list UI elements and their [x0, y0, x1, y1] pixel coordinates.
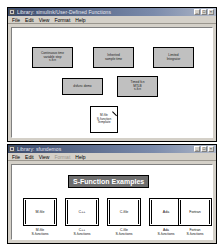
menu-file[interactable]: File — [10, 154, 23, 160]
menu-format[interactable]: Format — [52, 17, 73, 23]
block-label: Inherited sample time — [105, 54, 122, 61]
menu-format: Format — [52, 154, 73, 160]
block-label: Continuous time variable step s-fcn — [41, 52, 64, 63]
block-label: dsfunc demo — [73, 85, 91, 89]
bottom-window-titlebar[interactable]: Library: sfundemos _ □ × — [8, 145, 216, 153]
library-user-defined-functions-window[interactable]: Library: simulink/User-Defined Functions… — [7, 7, 217, 142]
example-block-caption: C++ S-functions — [65, 228, 99, 236]
example-block-caption: C-file S-functions — [107, 228, 141, 236]
block-continuous-time-variable-step-sfcn[interactable]: Continuous time variable step s-fcn — [32, 47, 73, 68]
menu-edit[interactable]: Edit — [23, 17, 37, 23]
minimize-icon: _ — [195, 10, 199, 14]
example-block-face[interactable]: Fortran — [178, 198, 212, 226]
example-block-mfile-sfunctions[interactable]: M-file M-file S-functions — [23, 198, 57, 236]
maximize-icon: □ — [202, 147, 206, 151]
bottom-window-menubar[interactable]: File Edit View Format Help — [8, 153, 216, 161]
library-sfundemos-window[interactable]: Library: sfundemos _ □ × File Edit View … — [7, 144, 217, 244]
example-block-face[interactable]: M-file — [23, 198, 57, 226]
block-label: Timed fcn MTLB s-fcn — [131, 81, 145, 92]
minimize-button[interactable]: _ — [194, 9, 200, 15]
maximize-button[interactable]: □ — [201, 9, 207, 15]
maximize-icon: □ — [202, 10, 206, 14]
example-block-cpp-sfunctions[interactable]: C++ C++ S-functions — [65, 198, 99, 236]
block-timed-fcn-mtlb-sfcn[interactable]: Timed fcn MTLB s-fcn — [117, 76, 158, 97]
close-icon: × — [209, 147, 213, 151]
maximize-button[interactable]: □ — [201, 146, 207, 152]
example-block-face[interactable]: C++ — [65, 198, 99, 226]
block-label: Limited Integrator — [167, 54, 181, 61]
block-limited-integrator[interactable]: Limited Integrator — [153, 47, 194, 68]
block-label: M-file S-function Template — [97, 114, 111, 125]
example-block-face-label: M-file — [36, 210, 45, 214]
menu-file[interactable]: File — [10, 17, 23, 23]
block-dsfunc-demo[interactable]: dsfunc demo — [62, 78, 103, 95]
top-window-menubar[interactable]: File Edit View Format Help — [8, 16, 216, 24]
menu-edit[interactable]: Edit — [23, 154, 37, 160]
close-button[interactable]: × — [208, 9, 214, 15]
minimize-icon: _ — [195, 147, 199, 151]
example-block-face-label: C-file — [120, 210, 128, 214]
top-window-titlebar[interactable]: Library: simulink/User-Defined Functions… — [8, 8, 216, 16]
close-button[interactable]: × — [208, 146, 214, 152]
example-block-face-label: Ada — [163, 210, 169, 214]
top-window-title: Library: simulink/User-Defined Functions — [17, 9, 194, 15]
close-icon: × — [209, 10, 213, 14]
example-block-face-label: Fortran — [189, 210, 201, 214]
menu-help[interactable]: Help — [73, 154, 88, 160]
example-block-cfile-sfunctions[interactable]: C-file C-file S-functions — [107, 198, 141, 236]
menu-help[interactable]: Help — [73, 17, 88, 23]
example-block-caption: Fortran S-functions — [178, 228, 212, 236]
bottom-window-controls[interactable]: _ □ × — [194, 146, 215, 152]
example-block-fortran-sfunctions[interactable]: Fortran Fortran S-functions — [178, 198, 212, 236]
s-function-examples-banner[interactable]: S-Function Examples — [68, 175, 149, 188]
top-window-controls[interactable]: _ □ × — [194, 9, 215, 15]
bottom-window-canvas[interactable]: S-Function Examples M-file M-file S-func… — [11, 164, 213, 240]
block-inherited-sample-time[interactable]: Inherited sample time — [93, 47, 134, 68]
example-block-face-label: C++ — [79, 210, 86, 214]
example-block-caption: M-file S-functions — [23, 228, 57, 236]
menu-view[interactable]: View — [37, 17, 53, 23]
simulink-model-icon — [9, 9, 15, 15]
minimize-button[interactable]: _ — [194, 146, 200, 152]
bottom-window-title: Library: sfundemos — [17, 146, 194, 152]
example-block-face[interactable]: C-file — [107, 198, 141, 226]
menu-view[interactable]: View — [37, 154, 53, 160]
top-window-canvas[interactable]: Continuous time variable step s-fcn Inhe… — [11, 27, 213, 138]
block-mfile-sfunction-template[interactable]: M-file S-function Template — [90, 106, 118, 133]
simulink-model-icon — [9, 146, 15, 152]
